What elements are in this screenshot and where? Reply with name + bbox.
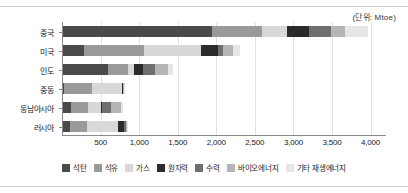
- legend-label: 바이오에너지: [238, 162, 279, 173]
- legend-label: 가스: [136, 162, 150, 173]
- bar-segment: [62, 102, 71, 113]
- y-tick-mark: [59, 127, 62, 128]
- bar-segment: [111, 102, 121, 113]
- bar-segment: [212, 26, 261, 37]
- legend-item[interactable]: 바이오에너지: [227, 162, 279, 173]
- legend-label: 원자력: [168, 162, 188, 173]
- bar-segment: [168, 64, 173, 75]
- y-tick-label: 러시아: [34, 121, 54, 132]
- bar-segment: [309, 26, 331, 37]
- y-tick-mark: [59, 89, 62, 90]
- bar-segment: [134, 64, 143, 75]
- bar-row: [62, 26, 368, 37]
- legend-item[interactable]: 원자력: [157, 162, 188, 173]
- x-tick-label: 1,000: [130, 138, 149, 147]
- legend-item[interactable]: 석탄: [62, 162, 87, 173]
- bar-segment: [127, 121, 128, 132]
- legend-label: 기타 재생에너지: [297, 162, 346, 173]
- bar-segment: [155, 64, 169, 75]
- bar-segment: [331, 26, 345, 37]
- bar-segment: [223, 45, 233, 56]
- bar-segment: [345, 26, 368, 37]
- legend-swatch: [62, 164, 70, 172]
- y-tick-mark: [59, 108, 62, 109]
- bar-segment: [233, 45, 240, 56]
- y-tick-label: 중동: [40, 83, 54, 94]
- legend-label: 수력: [206, 162, 220, 173]
- bar-segment: [71, 102, 88, 113]
- legend-swatch: [157, 164, 165, 172]
- legend-swatch: [286, 164, 294, 172]
- x-tick-label: 4,000: [361, 138, 380, 147]
- legend-swatch: [227, 164, 235, 172]
- plot-area: [62, 22, 386, 136]
- top-divider: [0, 6, 408, 7]
- bar-segment: [70, 121, 87, 132]
- bar-segment: [62, 45, 84, 56]
- x-tick-label: 3,500: [322, 138, 341, 147]
- y-tick-label: 중국: [40, 26, 54, 37]
- bar-segment: [64, 83, 93, 94]
- x-tick-label: 2,500: [245, 138, 264, 147]
- bar-segment: [84, 45, 144, 56]
- x-axis-tick-labels: 5001,0001,5002,0002,5003,0003,5004,000: [62, 138, 386, 150]
- bar-segment: [144, 45, 201, 56]
- bar-segment: [92, 83, 122, 94]
- bar-row: [62, 45, 240, 56]
- legend-label: 석유: [105, 162, 119, 173]
- bar-segment: [88, 102, 101, 113]
- bar-row: [62, 121, 128, 132]
- bar-row: [62, 102, 123, 113]
- y-tick-label: 동남아시아: [20, 102, 54, 113]
- chart-figure: (단위: Mtoe) 중국미국인도중동동남아시아러시아 5001,0001,50…: [0, 0, 408, 193]
- bar-segment: [62, 121, 70, 132]
- bar-segment: [102, 102, 110, 113]
- x-axis-line: [62, 135, 386, 136]
- bar-segment: [108, 64, 129, 75]
- unit-note: (단위: Mtoe): [352, 11, 396, 22]
- bar-segment: [262, 26, 287, 37]
- bar-segment: [121, 102, 123, 113]
- y-tick-label: 인도: [40, 64, 54, 75]
- legend-item[interactable]: 가스: [125, 162, 150, 173]
- x-tick-label: 1,500: [168, 138, 187, 147]
- bar-row: [62, 83, 124, 94]
- bar-segment: [87, 121, 117, 132]
- bar-segment: [118, 121, 125, 132]
- legend-swatch: [195, 164, 203, 172]
- bottom-divider: [0, 186, 408, 187]
- y-tick-label: 미국: [40, 45, 54, 56]
- y-tick-mark: [59, 70, 62, 71]
- bar-series-container: [62, 22, 386, 136]
- x-tick-label: 500: [94, 138, 107, 147]
- bar-segment: [62, 26, 212, 37]
- chart-legend: 석탄석유가스원자력수력바이오에너지기타 재생에너지: [0, 162, 408, 173]
- legend-item[interactable]: 기타 재생에너지: [286, 162, 346, 173]
- x-tick-label: 2,000: [207, 138, 226, 147]
- legend-label: 석탄: [73, 162, 87, 173]
- bar-segment: [287, 26, 309, 37]
- bar-segment: [201, 45, 218, 56]
- legend-item[interactable]: 석유: [94, 162, 119, 173]
- bar-segment: [143, 64, 155, 75]
- bar-row: [62, 64, 173, 75]
- y-tick-mark: [59, 32, 62, 33]
- legend-swatch: [125, 164, 133, 172]
- legend-item[interactable]: 수력: [195, 162, 220, 173]
- y-axis-line: [62, 22, 63, 136]
- bar-segment: [62, 64, 108, 75]
- y-tick-mark: [59, 51, 62, 52]
- x-tick-label: 3,000: [284, 138, 303, 147]
- legend-swatch: [94, 164, 102, 172]
- y-axis-tick-labels: 중국미국인도중동동남아시아러시아: [0, 22, 58, 136]
